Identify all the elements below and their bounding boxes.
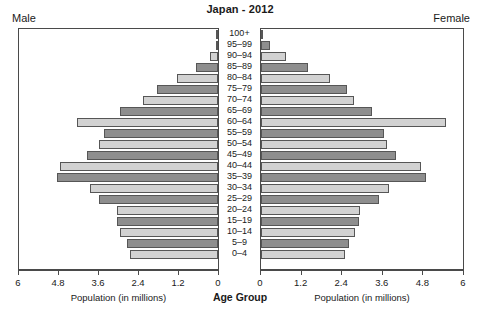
bar-row (19, 227, 218, 238)
age-group-label: 95–99 (219, 39, 260, 50)
bar-row (19, 172, 218, 183)
axis-tick-label: 1.2 (286, 277, 316, 288)
bar-female-04 (261, 250, 345, 259)
bar-row (19, 73, 218, 84)
bar-row (261, 150, 463, 161)
bar-female-100 (261, 30, 263, 39)
axis-tick-label: 2.4 (123, 277, 153, 288)
population-pyramid-chart: Japan - 2012 Male Female 100+95–9990–948… (0, 0, 480, 324)
bar-female-2024 (261, 206, 360, 215)
bar-row (261, 84, 463, 95)
axis-tick (422, 270, 423, 275)
bar-row (261, 183, 463, 194)
age-group-label: 30–34 (219, 182, 260, 193)
bar-row (19, 128, 218, 139)
axis-tick (98, 270, 99, 275)
axis-tick (382, 270, 383, 275)
bar-row (261, 216, 463, 227)
axis-tick-label: 2.4 (326, 277, 356, 288)
bar-male-7579 (157, 85, 218, 94)
bar-male-5559 (104, 129, 218, 138)
bar-male-4044 (60, 162, 218, 171)
bar-female-3539 (261, 173, 426, 182)
bar-male-3539 (57, 173, 218, 182)
axis-tick (260, 270, 261, 275)
bar-female-7579 (261, 85, 347, 94)
bar-row (261, 139, 463, 150)
age-group-label: 55–59 (219, 127, 260, 138)
bar-row (19, 150, 218, 161)
chart-title: Japan - 2012 (0, 3, 480, 15)
bar-row (261, 205, 463, 216)
age-group-label: 60–64 (219, 116, 260, 127)
age-group-label: 75–79 (219, 83, 260, 94)
bar-female-4044 (261, 162, 421, 171)
age-group-label: 85–89 (219, 61, 260, 72)
bar-row (19, 62, 218, 73)
male-x-axis-title: Population (in millions) (18, 292, 219, 303)
bar-male-1519 (117, 217, 218, 226)
bar-male-100 (216, 30, 218, 39)
age-group-label: 5–9 (219, 237, 260, 248)
axis-tick-label: 6 (3, 277, 33, 288)
bar-male-7074 (143, 96, 218, 105)
bar-male-9599 (216, 41, 218, 50)
bar-female-8084 (261, 74, 330, 83)
male-plot-panel (18, 28, 219, 270)
bar-row (19, 249, 218, 260)
age-group-label: 50–54 (219, 138, 260, 149)
axis-tick-label: 6 (448, 277, 478, 288)
bar-row (261, 194, 463, 205)
axis-tick (178, 270, 179, 275)
female-plot-panel (260, 28, 464, 270)
female-panel-label: Female (433, 12, 470, 24)
axis-tick-label: 4.8 (43, 277, 73, 288)
age-group-axis-title: Age Group (199, 291, 281, 303)
bar-male-8589 (196, 63, 218, 72)
bar-row (261, 40, 463, 51)
bar-male-3034 (90, 184, 218, 193)
axis-tick (58, 270, 59, 275)
age-group-label: 15–19 (219, 215, 260, 226)
female-bar-rows (261, 29, 463, 269)
axis-tick (18, 270, 19, 275)
axis-tick-label: 3.6 (367, 277, 397, 288)
age-group-label: 25–29 (219, 193, 260, 204)
female-axis-line (260, 270, 464, 271)
bar-row (261, 117, 463, 128)
age-group-label: 90–94 (219, 50, 260, 61)
bar-female-9094 (261, 52, 286, 61)
male-bar-rows (19, 29, 218, 269)
bar-female-1519 (261, 217, 359, 226)
axis-tick (301, 270, 302, 275)
bar-female-1014 (261, 228, 355, 237)
bar-row (261, 249, 463, 260)
age-group-label: 10–14 (219, 226, 260, 237)
bar-row (261, 238, 463, 249)
bar-male-04 (130, 250, 218, 259)
age-group-label: 0–4 (219, 248, 260, 259)
axis-tick-label: 0 (245, 277, 275, 288)
bar-row (19, 117, 218, 128)
bar-row (19, 51, 218, 62)
bar-male-1014 (120, 228, 218, 237)
bar-female-59 (261, 239, 349, 248)
bar-male-2024 (117, 206, 218, 215)
bar-male-59 (127, 239, 218, 248)
bar-row (19, 106, 218, 117)
bar-female-6569 (261, 107, 372, 116)
axis-tick-label: 3.6 (83, 277, 113, 288)
bar-row (19, 216, 218, 227)
bar-row (261, 51, 463, 62)
bar-male-6064 (77, 118, 218, 127)
age-group-label: 100+ (219, 28, 260, 39)
age-group-label: 70–74 (219, 94, 260, 105)
bar-row (261, 106, 463, 117)
bar-row (19, 95, 218, 106)
bar-female-5054 (261, 140, 387, 149)
bar-row (19, 238, 218, 249)
male-panel-label: Male (12, 12, 36, 24)
male-axis-line (18, 270, 219, 271)
age-group-label: 35–39 (219, 171, 260, 182)
bar-female-8589 (261, 63, 308, 72)
